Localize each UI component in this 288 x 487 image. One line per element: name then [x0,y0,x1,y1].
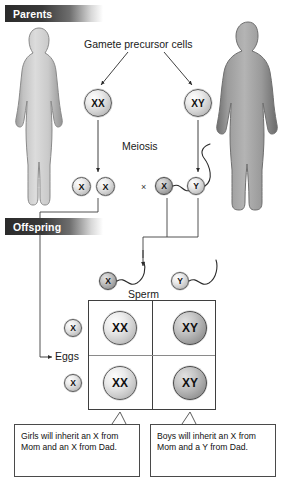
meiosis-egg-cell-1: X [72,177,91,196]
egg-cell-row-2: X [64,374,82,392]
punnett-cell-row1-col1: XX [103,311,137,345]
section-banner-parents: Parents [5,5,103,22]
sperm-cell-x: X [99,272,117,290]
punnett-horizontal-divider [89,355,215,356]
precursor-cell-xx: XX [84,89,112,117]
mother-figure-icon [10,24,68,210]
section-banner-offspring-label: Offspring [13,221,61,233]
section-banner-offspring: Offspring [5,218,103,235]
diagram-canvas: Parents Offspring Gamete precursor cells… [0,0,288,487]
meiosis-sperm-cell-x: X [155,177,173,195]
eggs-label: Eggs [55,350,79,362]
section-banner-parents-label: Parents [13,8,52,20]
meiosis-label: Meiosis [122,140,158,152]
punnett-cell-row2-col1: XX [103,366,137,400]
cross-symbol-label: × [141,182,146,192]
punnett-cell-row1-col2: XY [173,311,207,345]
father-figure-icon [214,18,282,214]
meiosis-egg-cell-2: X [96,177,115,196]
precursor-cell-xy: XY [184,89,212,117]
caption-boys: Boys will inherit an X from Mom and a Y … [150,424,276,477]
sperm-label: Sperm [128,288,159,300]
caption-girls: Girls will inherit an X from Mom and an … [14,424,140,477]
meiosis-sperm-cell-y: Y [187,177,205,195]
punnett-cell-row2-col2: XY [173,366,207,400]
gamete-precursor-label: Gamete precursor cells [84,38,193,50]
egg-cell-row-1: X [64,319,82,337]
sperm-cell-y: Y [171,272,189,290]
